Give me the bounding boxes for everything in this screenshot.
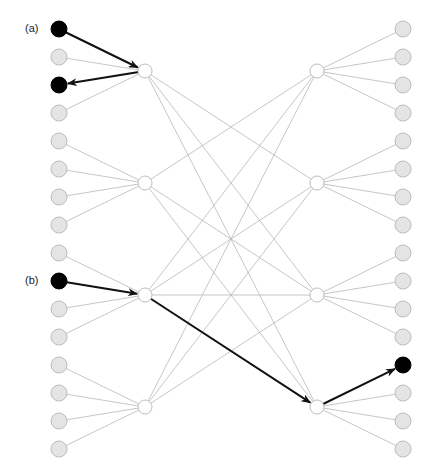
- edge: [317, 71, 403, 85]
- left-hub-node: [138, 64, 152, 78]
- edge: [59, 365, 145, 407]
- right-node: [395, 189, 411, 205]
- right-node: [395, 21, 411, 37]
- left-node: [51, 301, 67, 317]
- left-node: [51, 189, 67, 205]
- edge: [317, 29, 403, 71]
- left-node: [51, 217, 67, 233]
- right-hub-node: [310, 288, 324, 302]
- path-a-arrow: [68, 71, 145, 84]
- right-node: [395, 441, 411, 457]
- left-node: [51, 357, 67, 373]
- left-node: [51, 49, 67, 65]
- edge: [317, 407, 403, 449]
- edge: [59, 169, 145, 183]
- right-node: [395, 49, 411, 65]
- right-node: [395, 77, 411, 93]
- active-left-node: [51, 77, 67, 93]
- path-b-arrow: [145, 295, 310, 403]
- right-node: [395, 133, 411, 149]
- path-a-arrow: [59, 29, 138, 67]
- path-b-arrow: [317, 369, 395, 407]
- edge: [59, 407, 145, 421]
- right-hub-node: [310, 64, 324, 78]
- edge: [317, 183, 403, 225]
- left-node: [51, 413, 67, 429]
- edge: [59, 141, 145, 183]
- right-node: [395, 105, 411, 121]
- edge: [59, 393, 145, 407]
- right-node: [395, 217, 411, 233]
- left-node: [51, 329, 67, 345]
- edge: [317, 281, 403, 295]
- right-hub-node: [310, 176, 324, 190]
- left-hub-node: [138, 400, 152, 414]
- right-node: [395, 245, 411, 261]
- active-left-node: [51, 21, 67, 37]
- left-node: [51, 441, 67, 457]
- right-hub-node: [310, 400, 324, 414]
- edge: [317, 183, 403, 197]
- edge: [59, 183, 145, 225]
- left-node: [51, 385, 67, 401]
- edge: [317, 71, 403, 113]
- right-node: [395, 329, 411, 345]
- right-node: [395, 301, 411, 317]
- edge: [317, 407, 403, 421]
- edge: [317, 57, 403, 71]
- edge: [317, 253, 403, 295]
- right-node: [395, 413, 411, 429]
- right-node: [395, 385, 411, 401]
- edge: [59, 295, 145, 309]
- right-node: [395, 273, 411, 289]
- edge: [317, 141, 403, 183]
- edge: [59, 183, 145, 197]
- path-b-arrow: [59, 281, 137, 294]
- left-hub-node: [138, 176, 152, 190]
- left-hub-node: [138, 288, 152, 302]
- edge: [317, 295, 403, 309]
- network-diagram: [0, 0, 430, 470]
- left-node: [51, 161, 67, 177]
- right-node: [395, 161, 411, 177]
- edge: [317, 295, 403, 337]
- active-right-node: [395, 357, 411, 373]
- edge: [59, 407, 145, 449]
- left-node: [51, 245, 67, 261]
- edge: [317, 169, 403, 183]
- highlighted-paths: [59, 29, 395, 407]
- left-node: [51, 105, 67, 121]
- active-left-node: [51, 273, 67, 289]
- left-node: [51, 133, 67, 149]
- edge: [59, 295, 145, 337]
- thin-edges: [59, 29, 403, 449]
